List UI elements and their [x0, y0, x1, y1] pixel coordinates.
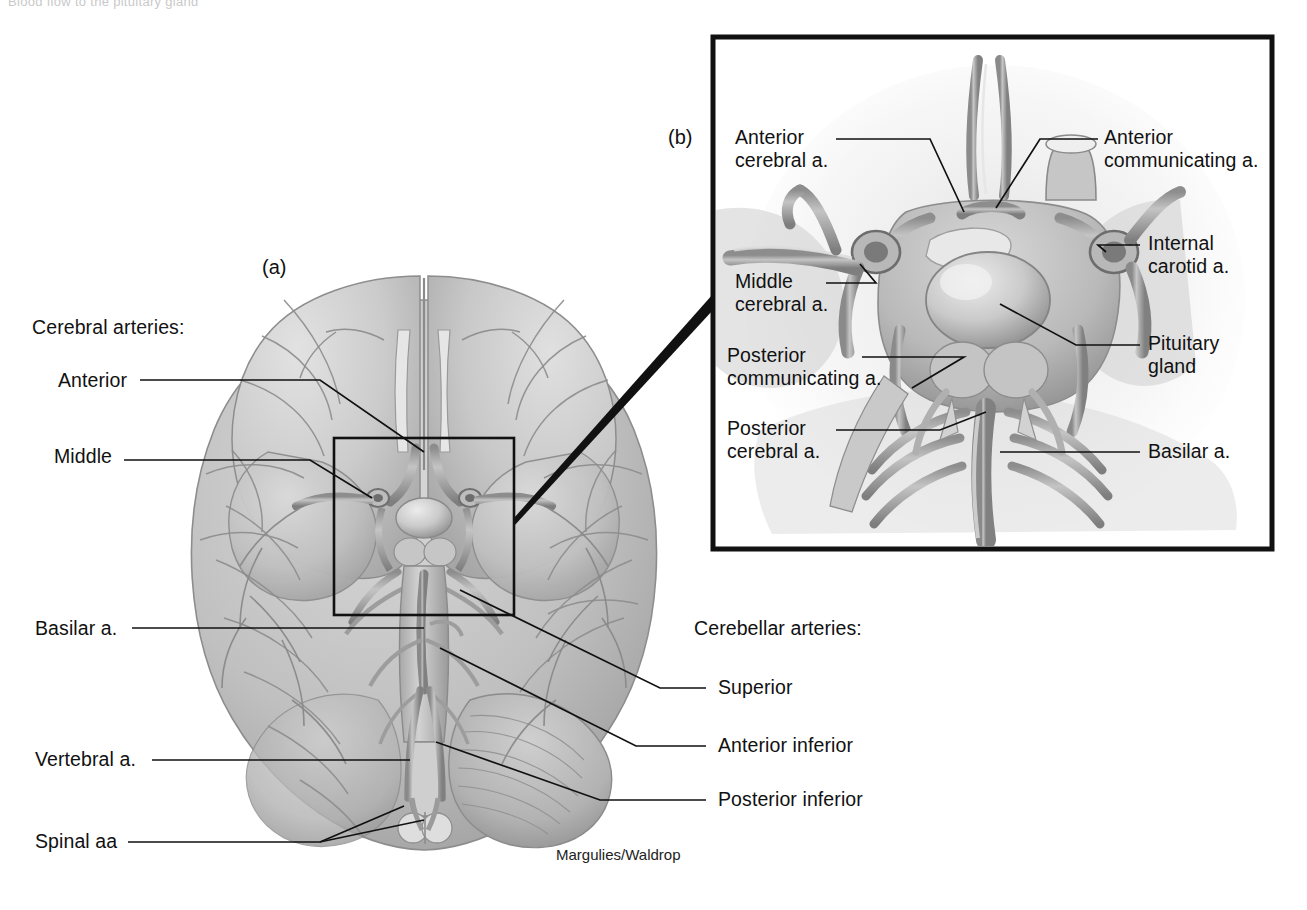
label-superior-cerebellar: Superior	[718, 676, 793, 699]
label-anterior-cerebral-b: Anterior cerebral a.	[735, 126, 828, 172]
label-posterior-cerebral: Posterior cerebral a.	[727, 417, 820, 463]
label-spinal-arteries: Spinal aa	[35, 830, 117, 853]
label-anterior-inferior-cerebellar: Anterior inferior	[718, 734, 853, 757]
panel-a-brain	[191, 276, 656, 850]
label-basilar-artery-b: Basilar a.	[1148, 440, 1230, 463]
label-posterior-inferior-cerebellar: Posterior inferior	[718, 788, 863, 811]
label-cerebellar-arteries-group: Cerebellar arteries:	[694, 617, 862, 640]
label-cerebral-arteries-group: Cerebral arteries:	[32, 316, 184, 339]
label-internal-carotid: Internal carotid a.	[1148, 232, 1229, 278]
label-middle-cerebral-b: Middle cerebral a.	[735, 270, 828, 316]
panel-b-id: (b)	[668, 126, 692, 149]
label-posterior-communicating: Posterior communicating a.	[727, 344, 881, 390]
label-basilar-artery-a: Basilar a.	[35, 617, 117, 640]
label-middle-cerebral: Middle	[54, 445, 112, 468]
label-vertebral-artery: Vertebral a.	[35, 748, 136, 771]
figure-canvas: Blood flow to the pituitary gland	[0, 0, 1307, 910]
label-anterior-communicating: Anterior communicating a.	[1104, 126, 1258, 172]
pituitary-gland-shape	[926, 252, 1050, 348]
artist-credit: Margulies/Waldrop	[556, 846, 681, 863]
panel-a-id: (a)	[262, 256, 286, 279]
cut-off-caption: Blood flow to the pituitary gland	[8, 0, 199, 9]
label-pituitary-gland: Pituitary gland	[1148, 332, 1219, 378]
label-anterior-cerebral: Anterior	[58, 369, 127, 392]
